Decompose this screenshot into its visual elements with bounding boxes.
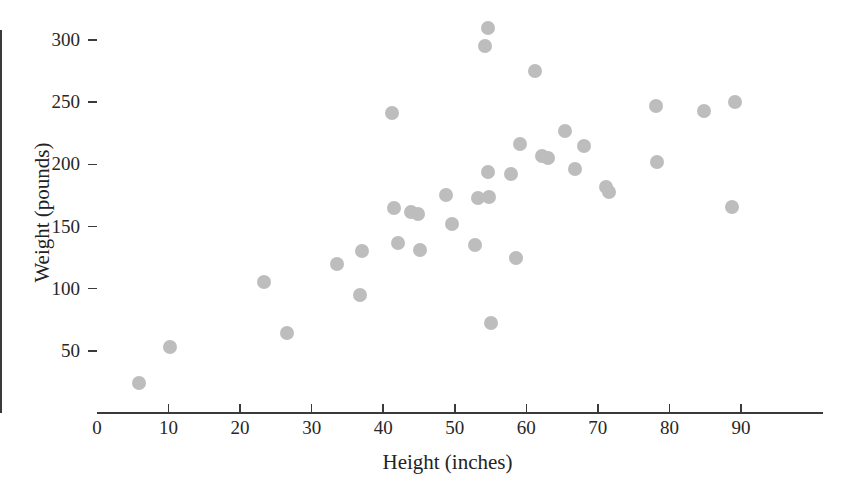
data-point xyxy=(385,106,399,120)
data-point xyxy=(481,165,495,179)
data-point xyxy=(411,207,425,221)
data-point xyxy=(387,201,401,215)
data-point xyxy=(482,190,496,204)
plot-area xyxy=(97,30,822,413)
x-axis-tick-label: 0 xyxy=(67,418,127,437)
y-axis-title: Weight (pounds) xyxy=(30,63,55,363)
x-axis-title-text: Height (inches) xyxy=(382,450,512,474)
data-point xyxy=(650,155,664,169)
data-point xyxy=(509,251,523,265)
x-axis-tick-label: 80 xyxy=(639,418,699,437)
data-point xyxy=(513,137,527,151)
y-axis-tick-label: 300 xyxy=(20,30,80,49)
scatter-chart: 50100150200250300 0102030405060708090 We… xyxy=(0,0,849,499)
y-axis-tick xyxy=(88,288,97,290)
data-point xyxy=(528,64,542,78)
x-axis-tick-label: 70 xyxy=(568,418,628,437)
y-axis-tick xyxy=(88,226,97,228)
y-axis-line xyxy=(0,30,2,413)
data-point xyxy=(163,340,177,354)
data-point xyxy=(257,275,271,289)
x-axis-title: Height (inches) xyxy=(0,450,849,475)
data-point xyxy=(413,243,427,257)
data-point xyxy=(478,39,492,53)
data-point xyxy=(439,188,453,202)
y-axis-tick xyxy=(88,350,97,352)
data-point xyxy=(445,217,459,231)
data-point xyxy=(481,21,495,35)
data-point xyxy=(132,376,146,390)
data-point xyxy=(541,151,555,165)
data-point xyxy=(649,99,663,113)
data-point xyxy=(558,124,572,138)
x-axis-tick-label: 60 xyxy=(496,418,556,437)
x-axis-tick-label: 90 xyxy=(711,418,771,437)
x-axis-tick-label: 40 xyxy=(353,418,413,437)
data-point xyxy=(697,104,711,118)
data-point xyxy=(468,238,482,252)
y-axis-tick xyxy=(88,101,97,103)
x-axis-tick-label: 20 xyxy=(210,418,270,437)
data-point xyxy=(568,162,582,176)
x-axis-tick-label: 30 xyxy=(282,418,342,437)
x-axis-tick-label: 50 xyxy=(425,418,485,437)
y-axis-tick xyxy=(88,39,97,41)
x-axis-tick-label: 10 xyxy=(139,418,199,437)
data-point xyxy=(484,316,498,330)
data-point xyxy=(280,326,294,340)
data-point xyxy=(725,200,739,214)
data-point xyxy=(577,139,591,153)
y-axis-tick xyxy=(88,164,97,166)
data-point xyxy=(391,236,405,250)
data-point xyxy=(353,288,367,302)
data-point xyxy=(728,95,742,109)
data-point xyxy=(355,244,369,258)
data-point xyxy=(602,185,616,199)
data-point xyxy=(504,167,518,181)
data-point xyxy=(330,257,344,271)
